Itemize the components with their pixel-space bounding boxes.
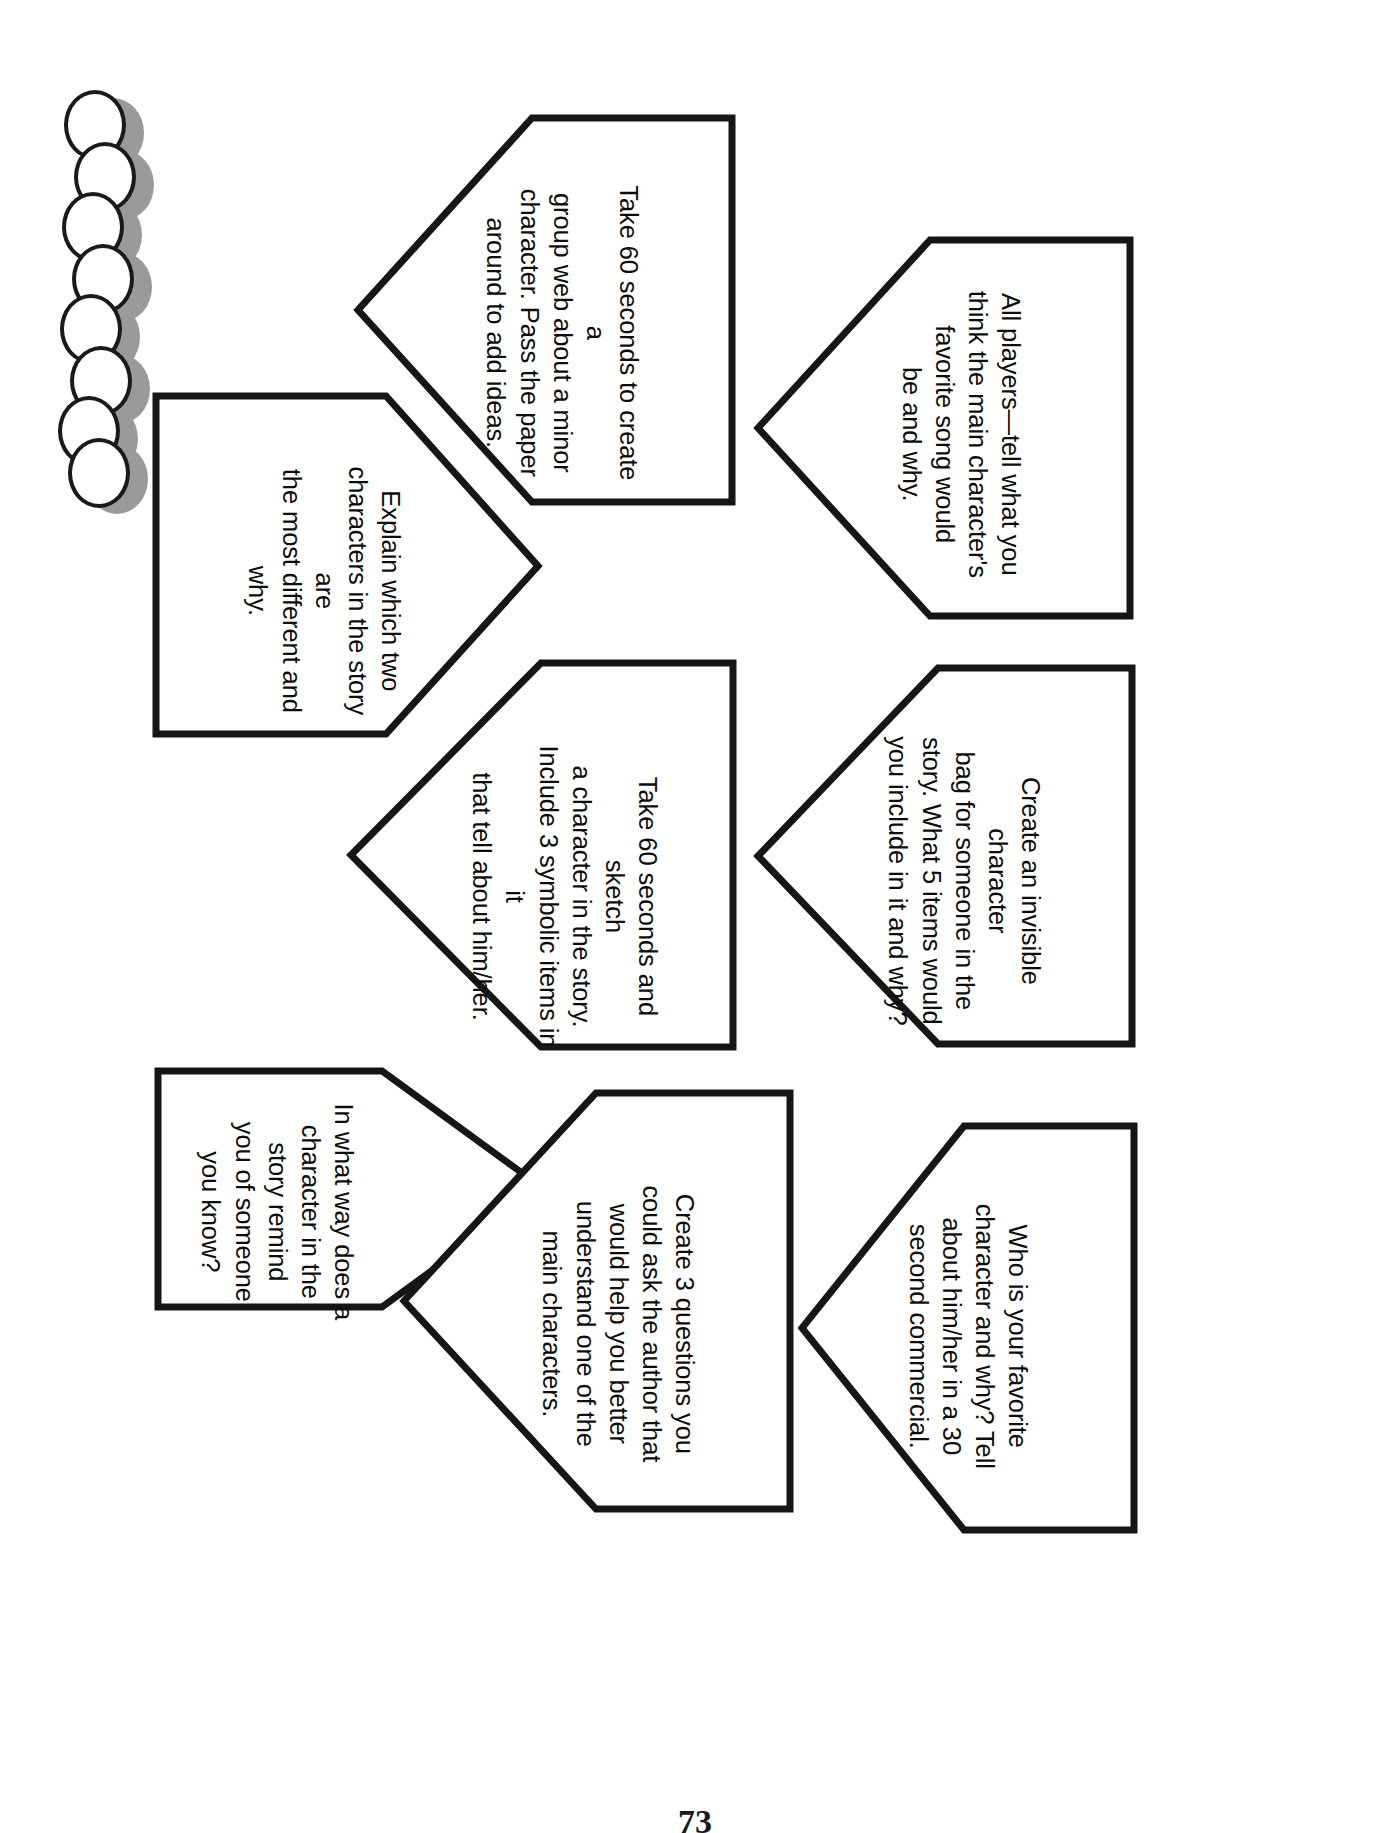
card-text: Who is your favorite character and why? … [902, 1200, 1035, 1472]
card-questions-for-author[interactable]: Create 3 questions you could ask the aut… [398, 1085, 794, 1517]
chain-circle [68, 438, 130, 508]
card-text: Take 60 seconds and sketch a character i… [466, 738, 665, 1054]
card-text: Create 3 questions you could ask the aut… [535, 1164, 701, 1484]
card-favorite-character-commercial[interactable]: Who is your favorite character and why? … [796, 1118, 1138, 1538]
card-text: In what way does a character in the stor… [194, 1102, 360, 1322]
card-text: All players—tell what you think the main… [895, 281, 1028, 587]
card-sketch-character[interactable]: Take 60 seconds and sketch a character i… [345, 655, 737, 1055]
card-text: Create an invisible character bag for so… [881, 727, 1047, 1035]
card-invisible-character-bag[interactable]: Create an invisible character bag for so… [752, 660, 1136, 1052]
card-favorite-song[interactable]: All players—tell what you think the main… [752, 232, 1134, 624]
page-number: 73 [0, 1803, 1390, 1833]
